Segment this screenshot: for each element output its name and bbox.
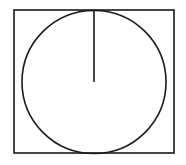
geometry-diagram xyxy=(0,0,186,165)
